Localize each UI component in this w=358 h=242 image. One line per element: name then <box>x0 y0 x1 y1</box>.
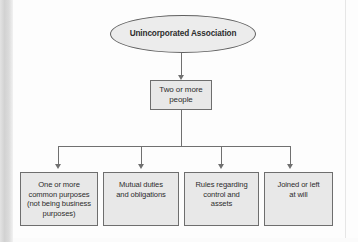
node-two-or-more-people: Two or more people <box>150 80 212 110</box>
connector-bus-to-leaf-4 <box>290 146 291 165</box>
node-unincorporated-association: Unincorporated Association <box>110 15 256 53</box>
page-edge-shadow-left <box>0 0 13 242</box>
node-two-or-more-people-label: Two or more people <box>155 85 206 105</box>
arrowhead-leaf-2-icon <box>138 164 144 169</box>
page-edge-line-right <box>345 0 346 242</box>
page-edge-bottom <box>13 238 358 242</box>
arrowhead-leaf-1-icon <box>55 164 61 169</box>
node-common-purposes-label: One or more common purposes (not being b… <box>23 180 95 219</box>
connector-bus-horizontal <box>58 146 291 147</box>
connector-bus-to-leaf-2 <box>141 146 142 165</box>
node-common-purposes: One or more common purposes (not being b… <box>20 172 98 226</box>
node-joined-or-left-at-will: Joined or left at will <box>264 172 333 226</box>
connector-bus-to-leaf-3 <box>221 146 222 165</box>
connector-bus-to-leaf-1 <box>58 146 59 165</box>
node-rules-regarding-control-label: Rules regarding control and assets <box>191 180 251 209</box>
connector-root-to-middle <box>181 53 182 76</box>
node-unincorporated-association-label: Unincorporated Association <box>126 29 241 40</box>
node-mutual-duties: Mutual duties and obligations <box>103 172 179 226</box>
connector-middle-to-bus <box>181 110 182 146</box>
arrowhead-leaf-3-icon <box>218 164 224 169</box>
diagram-canvas: Unincorporated Association Two or more p… <box>0 0 358 242</box>
arrowhead-leaf-4-icon <box>287 164 293 169</box>
node-joined-or-left-at-will-label: Joined or left at will <box>273 180 323 199</box>
node-mutual-duties-label: Mutual duties and obligations <box>112 180 170 199</box>
node-rules-regarding-control: Rules regarding control and assets <box>184 172 259 226</box>
